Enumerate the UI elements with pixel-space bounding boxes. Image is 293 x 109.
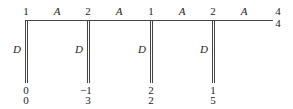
node-bottom-label: 0	[23, 95, 29, 106]
branch-label: D	[200, 44, 208, 55]
branch-label: D	[138, 44, 146, 55]
end-top-label: 4	[275, 6, 281, 17]
branch-line	[150, 20, 151, 83]
edge-label: A	[241, 6, 248, 17]
branch-line	[89, 20, 90, 83]
node-top-label: 2	[210, 6, 216, 17]
branch-label: D	[13, 44, 21, 55]
main-line	[25, 20, 273, 21]
node-top-label: 1	[148, 6, 154, 17]
branch-line	[214, 20, 215, 83]
end-bottom-label: 4	[275, 18, 281, 29]
node-top-label: 1	[23, 6, 29, 17]
node-top-label: 2	[85, 6, 91, 17]
node-bottom-label: 5	[210, 95, 216, 106]
edge-label: A	[54, 6, 61, 17]
branch-line	[27, 20, 28, 83]
branch-line	[152, 20, 153, 83]
node-bottom-label: 2	[148, 95, 154, 106]
edge-label: A	[179, 6, 186, 17]
branch-line	[87, 20, 88, 83]
branch-label: D	[75, 44, 83, 55]
branch-line	[212, 20, 213, 83]
node-bottom-label: 3	[85, 95, 91, 106]
branch-line	[25, 20, 26, 83]
edge-label: A	[116, 6, 123, 17]
